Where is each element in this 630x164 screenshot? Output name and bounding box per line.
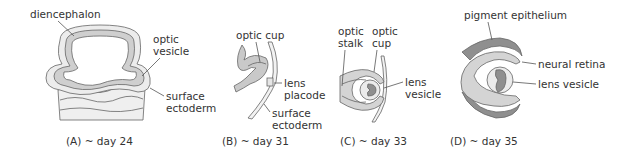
label-lens-placode-1: lens [284,77,306,89]
label-optic-cup-c-1: optic [372,25,398,37]
label-optic-vesicle-2: vesicle [153,45,189,57]
label-pigment-epithelium: pigment epithelium [464,9,567,21]
caption-d: (D) ~ day 35 [450,135,518,147]
label-neural-retina: neural retina [538,58,605,70]
panel-a-lumen [64,36,137,85]
eye-development-diagram: diencephalon optic vesicle surface ectod… [0,0,630,164]
label-surface-ectoderm-b-2: ectoderm [272,119,322,131]
label-optic-cup-c-2: cup [372,37,391,49]
label-surface-ectoderm-1: surface [166,90,205,102]
label-lens-placode-2: placode [284,89,325,101]
label-lens-vesicle-c-2: vesicle [405,88,441,100]
caption-a: (A) ~ day 24 [66,135,133,147]
label-diencephalon: diencephalon [30,8,101,20]
label-surface-ectoderm-b-1: surface [272,107,311,119]
label-surface-ectoderm-2: ectoderm [166,102,216,114]
caption-b: (B) ~ day 31 [222,135,289,147]
label-optic-vesicle-1: optic [153,33,179,45]
panel-d: pigment epithelium neural retina lens ve… [450,9,605,147]
label-optic-stalk-2: stalk [338,37,364,49]
label-optic-cup: optic cup [236,29,285,41]
panel-a: diencephalon optic vesicle surface ectod… [30,8,216,147]
label-lens-vesicle-d: lens vesicle [538,78,599,90]
label-optic-stalk-1: optic [338,25,364,37]
panel-b: optic cup lens placode surface ectoderm … [222,29,325,147]
panel-c: optic stalk optic cup lens vesicle (C) ~… [338,25,441,147]
label-lens-vesicle-c-1: lens [405,76,427,88]
caption-c: (C) ~ day 33 [340,135,407,147]
panel-b-lens-placode [267,78,273,86]
panel-b-optic-cup [234,45,268,92]
